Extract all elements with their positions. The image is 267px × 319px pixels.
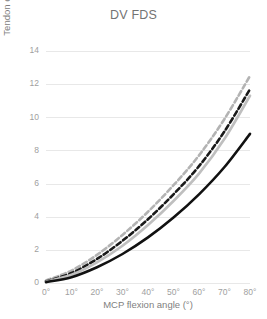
x-tick-label: 30° [116, 287, 129, 297]
y-tick-label: 10 [30, 112, 40, 122]
series-line-black-solid [46, 134, 250, 282]
y-tick-label: 0 [34, 277, 39, 287]
series-line-gray-solid [46, 96, 250, 282]
gridlines [46, 52, 250, 284]
chart-container: DV FDS Tendon excursion (mm) 02468101214… [0, 0, 267, 319]
x-tick-label: 70° [218, 287, 231, 297]
y-tick-label: 14 [30, 45, 40, 55]
y-tick-label: 4 [34, 211, 39, 221]
x-tick-label: 40° [142, 287, 155, 297]
y-tick-label: 12 [30, 78, 40, 88]
y-tick-labels: 02468101214 [30, 45, 40, 287]
x-tick-label: 60° [193, 287, 206, 297]
x-tick-label: 80° [244, 287, 257, 297]
x-axis-title: MCP flexion angle (°) [46, 299, 250, 310]
y-tick-label: 6 [34, 178, 39, 188]
x-tick-labels: 0°10°20°30°40°50°60°70°80° [42, 287, 257, 297]
series-lines [46, 76, 250, 282]
series-line-gray-dashed-upper [46, 76, 250, 281]
x-tick-label: 10° [65, 287, 78, 297]
x-tick-label: 50° [167, 287, 180, 297]
plot-area: 02468101214 0°10°20°30°40°50°60°70°80° [0, 0, 267, 319]
x-tick-label: 20° [91, 287, 104, 297]
y-tick-label: 8 [34, 145, 39, 155]
y-tick-label: 2 [34, 244, 39, 254]
x-tick-label: 0° [42, 287, 50, 297]
